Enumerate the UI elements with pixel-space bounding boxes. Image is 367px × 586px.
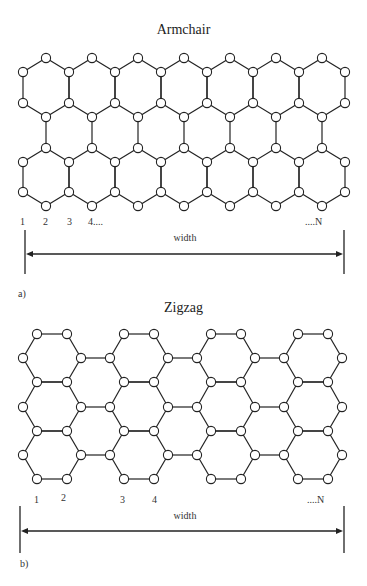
atom-node — [202, 187, 211, 196]
atom-node — [317, 53, 326, 62]
atom-node — [110, 187, 119, 196]
atom-node — [236, 377, 245, 386]
atom-node — [179, 53, 188, 62]
atom-node — [337, 402, 346, 411]
atom-node — [133, 112, 142, 121]
atom-node — [279, 353, 288, 362]
atom-node — [149, 329, 158, 338]
atom-node — [119, 329, 128, 338]
atom-node — [64, 98, 73, 107]
atom-node — [250, 353, 259, 362]
atom-node — [317, 201, 326, 210]
atom-node — [202, 67, 211, 76]
atom-node — [163, 353, 172, 362]
atom-node — [149, 474, 158, 483]
armchair-title: Armchair — [0, 22, 367, 38]
atom-node — [340, 157, 349, 166]
atom-node — [317, 112, 326, 121]
atom-node — [163, 450, 172, 459]
atom-node — [133, 143, 142, 152]
atom-node — [293, 426, 302, 435]
atom-node — [236, 426, 245, 435]
atom-node — [76, 450, 85, 459]
atom-node — [337, 353, 346, 362]
arrowhead-left-icon — [21, 528, 28, 534]
atom-node — [293, 474, 302, 483]
atom-node — [271, 53, 280, 62]
armchair-index-4: 4.... — [88, 216, 103, 227]
atom-node — [179, 143, 188, 152]
atom-node — [87, 143, 96, 152]
atom-node — [119, 474, 128, 483]
atom-node — [32, 329, 41, 338]
atom-node — [18, 187, 27, 196]
armchair-width-label: width — [160, 232, 210, 243]
atom-node — [105, 450, 114, 459]
atom-node — [156, 98, 165, 107]
zigzag-index-4: 4 — [152, 494, 157, 505]
atom-node — [192, 402, 201, 411]
atom-node — [250, 450, 259, 459]
atom-node — [18, 353, 27, 362]
atom-node — [18, 402, 27, 411]
atom-node — [133, 53, 142, 62]
atom-node — [236, 474, 245, 483]
atom-node — [41, 201, 50, 210]
atom-node — [293, 377, 302, 386]
atom-node — [149, 377, 158, 386]
atom-node — [206, 426, 215, 435]
atom-node — [337, 450, 346, 459]
atom-node — [225, 53, 234, 62]
atom-node — [271, 143, 280, 152]
atom-node — [206, 474, 215, 483]
panel-b-label: b) — [20, 558, 28, 569]
atom-node — [149, 426, 158, 435]
atom-node — [294, 187, 303, 196]
atom-node — [76, 402, 85, 411]
atom-node — [110, 157, 119, 166]
atom-node — [87, 53, 96, 62]
atom-node — [41, 143, 50, 152]
atom-node — [192, 450, 201, 459]
atom-node — [62, 377, 71, 386]
atom-node — [62, 474, 71, 483]
zigzag-index-2: 2 — [61, 492, 66, 503]
atom-node — [119, 426, 128, 435]
atom-node — [133, 201, 142, 210]
atom-node — [248, 187, 257, 196]
atom-node — [105, 353, 114, 362]
atom-node — [18, 98, 27, 107]
arrowhead-left-icon — [26, 251, 33, 257]
zigzag-index-3: 3 — [120, 494, 125, 505]
atom-node — [340, 187, 349, 196]
zigzag-title: Zigzag — [0, 300, 367, 316]
atom-node — [87, 112, 96, 121]
atom-node — [76, 353, 85, 362]
atom-node — [87, 201, 96, 210]
atom-node — [340, 98, 349, 107]
atom-node — [294, 157, 303, 166]
atom-node — [317, 143, 326, 152]
atom-node — [206, 377, 215, 386]
arrowhead-right-icon — [336, 528, 343, 534]
atom-node — [248, 98, 257, 107]
atom-node — [225, 112, 234, 121]
atom-node — [32, 377, 41, 386]
atom-node — [192, 353, 201, 362]
atom-node — [18, 157, 27, 166]
armchair-index-2: 2 — [43, 216, 48, 227]
zigzag-width-label: width — [160, 510, 210, 521]
atom-node — [279, 402, 288, 411]
atom-node — [18, 450, 27, 459]
atom-node — [202, 157, 211, 166]
atom-node — [156, 157, 165, 166]
atom-node — [32, 426, 41, 435]
atom-node — [323, 329, 332, 338]
atom-node — [293, 329, 302, 338]
atom-node — [236, 329, 245, 338]
atom-node — [119, 377, 128, 386]
atom-node — [323, 426, 332, 435]
atom-node — [279, 450, 288, 459]
atom-node — [62, 329, 71, 338]
atom-node — [163, 402, 172, 411]
